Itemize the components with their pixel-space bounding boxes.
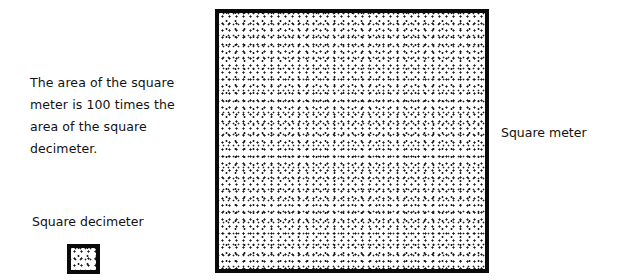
caption-line-1: The area of the square — [30, 72, 210, 94]
caption-line-3: area of the square — [30, 116, 210, 138]
area-comparison-caption: The area of the square meter is 100 time… — [30, 72, 210, 160]
square-decimeter-label: Square decimeter — [32, 214, 144, 229]
square-meter-label: Square meter — [501, 125, 587, 140]
square-decimeter-shape — [67, 244, 100, 274]
caption-line-4: decimeter. — [30, 138, 210, 160]
caption-line-2: meter is 100 times the — [30, 94, 210, 116]
square-meter-shape — [215, 9, 489, 273]
